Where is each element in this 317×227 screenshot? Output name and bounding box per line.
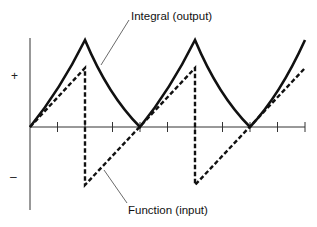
plus-label: + [11, 70, 18, 82]
minus-label: – [10, 171, 17, 183]
integral-function-diagram [0, 0, 317, 227]
function-leader-line [104, 170, 127, 203]
integral-output-label: Integral (output) [131, 11, 212, 23]
function-input-label: Function (input) [128, 205, 208, 217]
integral-leader-line [101, 20, 129, 65]
